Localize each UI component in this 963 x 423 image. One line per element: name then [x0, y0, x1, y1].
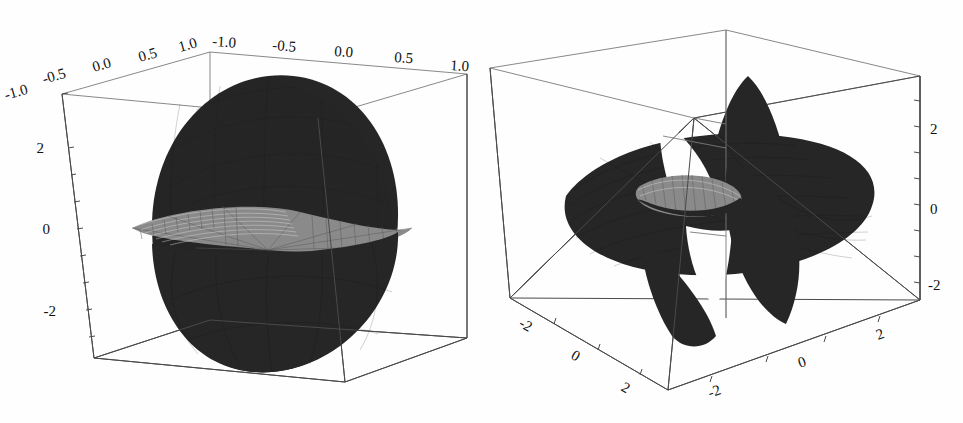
left-x-tick-0: -1.0 — [2, 81, 29, 103]
right-x-tick-0: -2 — [517, 315, 536, 335]
left-x-tick-3: 0.5 — [136, 44, 158, 65]
left-x-tick-1: -0.5 — [40, 65, 67, 87]
right-plot-svg: -2 0 2 -2 0 2 2 0 -2 — [480, 0, 963, 423]
right-x-tick-2: 2 — [619, 379, 633, 397]
right-z-tick-0: 2 — [930, 121, 938, 137]
left-z-tick-0: 2 — [37, 140, 45, 156]
left-y-tick-1: -0.5 — [272, 37, 297, 55]
right-y-tick-1: 0 — [796, 353, 808, 371]
figure-container: -1.0 -0.5 0.0 0.5 1.0 -1.0 -0.5 0.0 0.5 … — [0, 0, 963, 423]
right-z-tick-2: -2 — [928, 277, 941, 293]
left-y-tick-2: 0.0 — [334, 43, 354, 60]
left-z-axis-ticks — [62, 93, 95, 337]
right-x-tick-1: 0 — [569, 347, 583, 365]
left-x-axis-tick-labels: -1.0 -0.5 0.0 0.5 1.0 — [2, 34, 198, 103]
left-z-tick-1: 0 — [43, 221, 51, 237]
left-z-axis-tick-labels: 2 0 -2 — [37, 140, 57, 319]
left-y-tick-0: -1.0 — [212, 33, 237, 51]
left-plot-svg: -1.0 -0.5 0.0 0.5 1.0 -1.0 -0.5 0.0 0.5 … — [0, 0, 480, 423]
right-z-axis-ticks — [914, 100, 920, 283]
right-x-axis-tick-labels: -2 0 2 — [517, 315, 633, 397]
right-y-axis-tick-labels: -2 0 2 — [706, 325, 886, 401]
right-z-axis-tick-labels: 2 0 -2 — [928, 121, 941, 293]
right-z-tick-1: 0 — [930, 201, 938, 217]
left-x-tick-2: 0.0 — [90, 54, 112, 75]
left-x-tick-4: 1.0 — [176, 34, 198, 55]
right-plot-panel: -2 0 2 -2 0 2 2 0 -2 — [480, 0, 963, 423]
left-z-tick-2: -2 — [44, 303, 57, 319]
left-plot-panel: -1.0 -0.5 0.0 0.5 1.0 -1.0 -0.5 0.0 0.5 … — [0, 0, 480, 423]
right-y-tick-2: 2 — [874, 325, 886, 343]
left-y-tick-3: 0.5 — [394, 49, 414, 66]
right-y-tick-0: -2 — [706, 382, 723, 401]
left-y-axis-tick-labels: -1.0 -0.5 0.0 0.5 1.0 — [212, 33, 470, 74]
left-y-tick-4: 1.0 — [450, 57, 470, 74]
